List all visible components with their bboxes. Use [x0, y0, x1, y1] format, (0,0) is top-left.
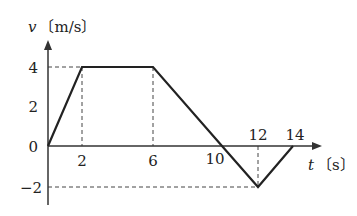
v-unit: 〔m/s〕 [39, 18, 96, 36]
y-tick-2: 2 [28, 98, 38, 116]
v-axis-arrow-icon [44, 40, 52, 50]
vt-graph: 4 2 0 −2 2 6 10 12 14 v〔m/s〕 t〔s〕 [0, 0, 357, 216]
t-axis-title: t〔s〕 [308, 156, 355, 174]
t-unit: 〔s〕 [317, 156, 355, 174]
v-symbol: v [28, 18, 37, 36]
x-tick-14: 14 [285, 126, 304, 144]
origin-label: 0 [28, 138, 38, 156]
y-tick-neg2: −2 [20, 179, 42, 197]
axes [44, 40, 322, 205]
x-tick-6: 6 [148, 152, 158, 170]
y-tick-4: 4 [28, 59, 38, 77]
t-axis-arrow-icon [312, 142, 322, 150]
x-tick-12: 12 [248, 126, 267, 144]
t-symbol: t [308, 156, 315, 174]
x-tick-10: 10 [205, 150, 224, 168]
x-tick-2: 2 [77, 152, 87, 170]
v-axis-title: v〔m/s〕 [28, 18, 96, 36]
